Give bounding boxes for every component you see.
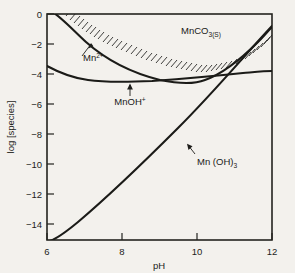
x-tick-label-8: 8 [119, 246, 124, 257]
label-mnohplus: MnOH+ [114, 96, 145, 107]
speciation-diagram: 0 −2 −4 −6 −8 −10 −12 −14 6 8 10 12 pH l… [0, 0, 295, 273]
y-tick-label-m4: −4 [31, 69, 42, 80]
y-tick-label-m10: −10 [26, 159, 42, 170]
y-tick-label-0: 0 [37, 9, 42, 20]
label-mnoh3: Mn (OH)3 [197, 156, 237, 169]
y-tick-label-m6: −6 [31, 99, 42, 110]
figure-panel: 0 −2 −4 −6 −8 −10 −12 −14 6 8 10 12 pH l… [0, 0, 295, 273]
y-tick-label-m8: −8 [31, 129, 42, 140]
y-axis-title: log [species] [5, 101, 16, 154]
x-tick-label-10: 10 [192, 246, 203, 257]
y-tick-label-m14: −14 [26, 219, 42, 230]
x-axis-title: pH [153, 260, 165, 271]
x-tick-label-6: 6 [44, 246, 49, 257]
y-tick-label-m12: −12 [26, 189, 42, 200]
x-tick-label-12: 12 [267, 246, 278, 257]
paper-background [0, 0, 295, 273]
y-tick-label-m2: −2 [31, 39, 42, 50]
